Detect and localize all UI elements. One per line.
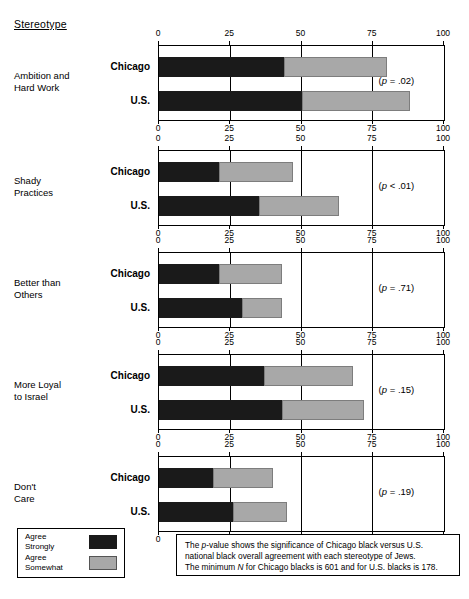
series-label-us: U.S. [40,95,150,106]
axis-tick-label: 75 [367,337,376,347]
bar-segment-agree-somewhat [259,196,339,216]
axis-tick-label: 100 [436,28,450,38]
legend-label-line2: Strongly [25,542,54,551]
p-value-text: = .02) [387,75,414,86]
bar-segment-agree-strongly [159,57,284,77]
stacked-bar-us [159,196,339,216]
axis-tick-label: 50 [296,123,305,133]
axis-tick-label: 25 [225,133,234,143]
gridline [372,253,373,327]
gridline [301,457,302,531]
p-value-annotation-5: (p = .19) [379,486,415,497]
legend-item-agree-strongly: Agree Strongly [25,532,121,553]
category-label-line2: to Israel [14,391,134,403]
axis-tick-label: 0 [156,235,161,245]
legend-item-agree-somewhat: Agree Somewhat [25,553,121,574]
footnote-line-3: The minimum N for Chicago blacks is 601 … [185,562,438,572]
axis-tick-label: 50 [296,28,305,38]
bar-segment-agree-somewhat [219,264,282,284]
axis-tick-label: 100 [436,133,450,143]
footnote-text: The [185,540,202,550]
p-value-text: = .15) [387,384,414,395]
stacked-bar-us [159,400,364,420]
bar-segment-agree-strongly [159,298,242,318]
gridline [372,457,373,531]
legend-swatch-agree-strongly [89,535,117,549]
p-value-annotation-1: (p = .02) [379,75,415,86]
gridline [372,355,373,429]
category-label-1: Ambition andHard Work [14,70,134,93]
stacked-bar-chicago [159,57,387,77]
bar-segment-agree-strongly [159,502,233,522]
legend-label-agree-strongly: Agree Strongly [25,532,77,551]
gridline [301,253,302,327]
bar-segment-agree-somewhat [264,366,352,386]
axis-tick-label: 25 [225,337,234,347]
legend-label-line1: Agree [25,553,46,562]
legend-label-line1: Agree [25,532,46,541]
axis-tick-label: 25 [225,439,234,449]
x-axis-bottom: 0255075100 [158,120,443,121]
p-value-text: < .01) [387,180,414,191]
footnote-text: -value shows the significance of Chicago… [206,540,423,550]
axis-tick-label: 100 [436,123,450,133]
bar-segment-agree-somewhat [284,57,387,77]
bar-segment-agree-somewhat [282,400,365,420]
axis-tick-label: 50 [296,235,305,245]
bar-segment-agree-somewhat [213,468,273,488]
bar-segment-agree-strongly [159,400,282,420]
stacked-bar-chicago [159,264,282,284]
axis-tick-label: 100 [436,235,450,245]
stacked-bar-us [159,298,282,318]
axis-tick-label: 25 [225,123,234,133]
legend-label-line2: Somewhat [25,563,63,572]
footnote-text: The minimum [185,562,238,572]
stacked-bar-chicago [159,162,293,182]
axis-tick-label: 0 [156,28,161,38]
p-value-annotation-3: (p = .71) [379,282,415,293]
bar-segment-agree-strongly [159,162,219,182]
gridline [372,151,373,225]
axis-tick-label: 100 [436,439,450,449]
bar-segment-agree-strongly [159,264,219,284]
p-value-text: = .19) [387,486,414,497]
axis-tick-label: 50 [296,133,305,143]
axis-tick-label: 75 [367,235,376,245]
series-label-chicago: Chicago [40,61,150,72]
footnote-line-1: The p-value shows the significance of Ch… [185,540,423,550]
legend-swatch-agree-somewhat [89,556,117,570]
axis-tick-label: 100 [436,337,450,347]
series-label-us: U.S. [40,302,150,313]
footnote-text: for Chicago blacks is 601 and for U.S. b… [244,562,438,572]
axis-tick-label: 50 [296,337,305,347]
stacked-bar-chicago [159,366,353,386]
axis-tick-label: 25 [225,235,234,245]
bar-segment-agree-strongly [159,91,302,111]
footnote: The p-value shows the significance of Ch… [176,534,460,576]
legend: Agree Strongly Agree Somewhat [17,528,125,578]
legend-label-agree-somewhat: Agree Somewhat [25,553,77,572]
x-axis-bottom: 0255075100 [158,429,443,430]
axis-tick-label: 0 [156,123,161,133]
bar-segment-agree-strongly [159,366,264,386]
bar-segment-agree-somewhat [219,162,293,182]
bar-segment-agree-strongly [159,196,259,216]
bar-segment-agree-somewhat [302,91,410,111]
axis-tick-label: 75 [367,28,376,38]
category-label-5: Don'tCare [14,481,134,504]
series-label-us: U.S. [40,200,150,211]
stacked-bar-us [159,502,287,522]
stereotype-column-header: Stereotype [14,18,67,30]
p-value-annotation-2: (p < .01) [379,180,415,191]
axis-tick-label: 25 [225,28,234,38]
stacked-bar-us [159,91,410,111]
category-label-line2: Practices [14,187,134,199]
bar-segment-agree-somewhat [242,298,282,318]
series-label-chicago: Chicago [40,370,150,381]
series-label-chicago: Chicago [40,472,150,483]
category-label-2: ShadyPractices [14,175,134,198]
x-axis-bottom: 0255075100 [158,327,443,328]
axis-tick-label: 75 [367,439,376,449]
category-label-line2: Others [14,289,134,301]
axis-tick-label: 0 [156,337,161,347]
